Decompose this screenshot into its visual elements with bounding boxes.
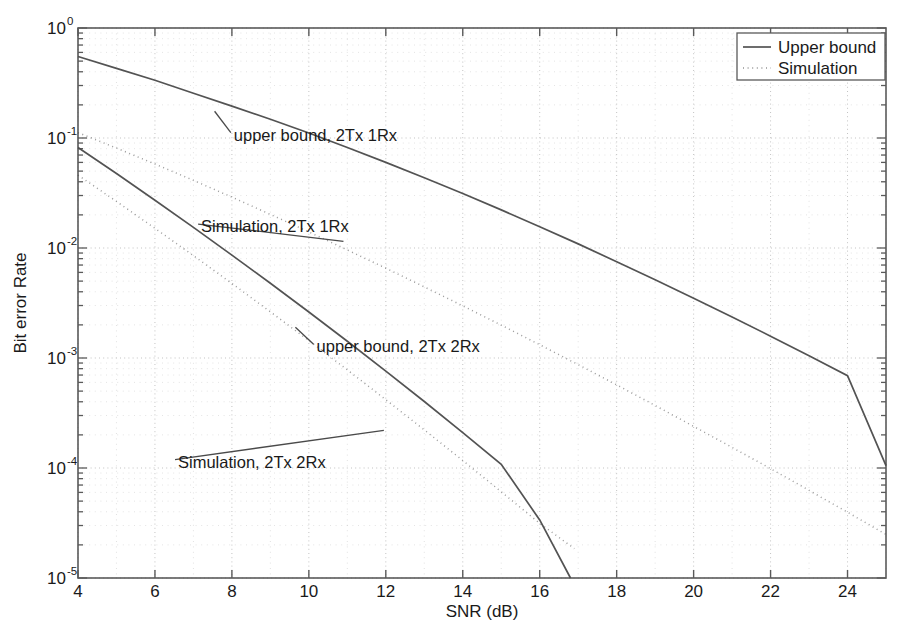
x-tick-label: 8 <box>227 582 236 601</box>
x-tick-label: 16 <box>530 582 549 601</box>
chart-canvas: 4681012141618202224 10010-110-210-310-41… <box>0 0 906 626</box>
x-tick-label: 14 <box>453 582 472 601</box>
svg-text:-5: -5 <box>67 565 77 577</box>
bit-error-rate-chart: 4681012141618202224 10010-110-210-310-41… <box>0 0 906 626</box>
svg-text:10: 10 <box>47 459 66 478</box>
svg-text:-3: -3 <box>67 345 77 357</box>
annotation-text: upper bound, 2Tx 2Rx <box>317 337 481 355</box>
annotation-text: upper bound, 2Tx 1Rx <box>234 126 398 144</box>
svg-text:-4: -4 <box>67 455 78 467</box>
svg-text:10: 10 <box>47 569 66 588</box>
svg-text:-1: -1 <box>67 125 77 137</box>
chart-legend[interactable]: Upper boundSimulation <box>737 33 885 80</box>
x-tick-label: 6 <box>150 582 159 601</box>
chart-background <box>0 0 906 626</box>
y-axis-label: Bit error Rate <box>11 252 30 353</box>
svg-text:10: 10 <box>47 19 66 38</box>
svg-text:10: 10 <box>47 349 66 368</box>
svg-text:0: 0 <box>67 15 73 27</box>
x-tick-label: 4 <box>73 582 82 601</box>
x-tick-label: 12 <box>376 582 395 601</box>
x-tick-label: 20 <box>684 582 703 601</box>
legend-label: Upper bound <box>778 38 876 57</box>
x-tick-label: 18 <box>607 582 626 601</box>
svg-text:10: 10 <box>47 129 66 148</box>
x-tick-label: 24 <box>838 582 857 601</box>
x-tick-label: 10 <box>299 582 318 601</box>
annotation-text: Simulation, 2Tx 2Rx <box>178 453 326 471</box>
annotation-text: Simulation, 2Tx 1Rx <box>201 217 349 235</box>
svg-text:10: 10 <box>47 239 66 258</box>
svg-text:-2: -2 <box>67 235 77 247</box>
legend-label: Simulation <box>778 59 857 78</box>
x-axis-label: SNR (dB) <box>446 602 519 621</box>
x-tick-label: 22 <box>761 582 780 601</box>
